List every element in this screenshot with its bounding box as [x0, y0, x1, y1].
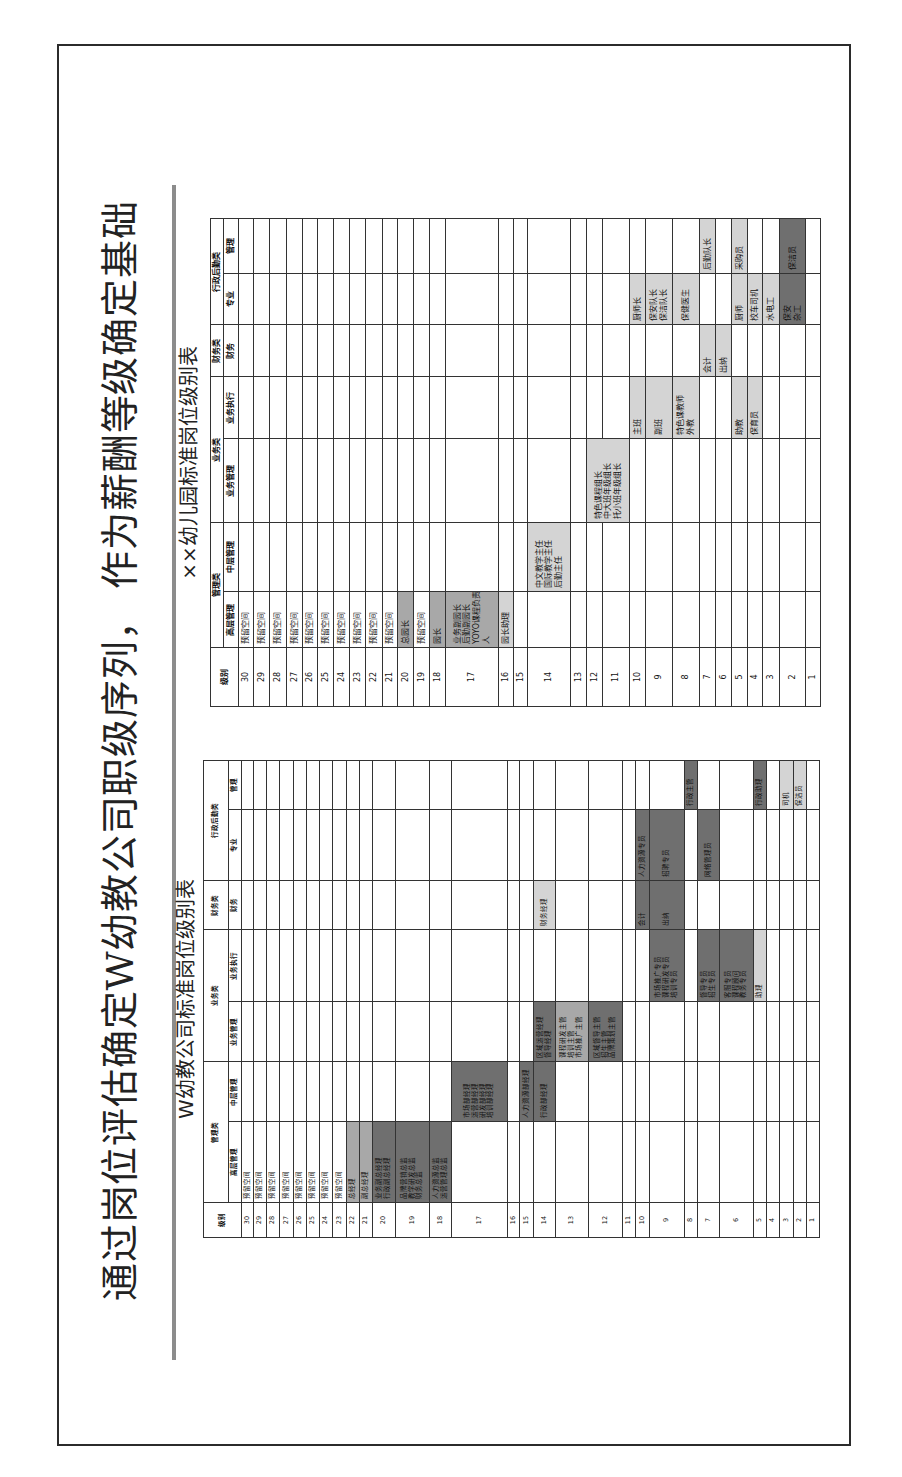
empty-cell	[673, 325, 700, 377]
empty-cell	[807, 1062, 820, 1122]
empty-cell	[396, 810, 430, 881]
level-row: 19品牌营销总监教学研发总监财务总监	[396, 761, 430, 1238]
empty-cell	[398, 219, 414, 274]
empty-cell	[528, 219, 571, 274]
position-title: 保健医生	[681, 276, 691, 321]
empty-cell	[318, 439, 334, 523]
empty-cell	[254, 930, 267, 1002]
position-title: 教务专员	[740, 932, 748, 998]
empty-cell	[673, 523, 700, 592]
level-row: 8行政主管	[685, 761, 698, 1238]
empty-cell	[239, 274, 254, 325]
empty-cell	[287, 274, 303, 325]
empty-cell	[780, 439, 806, 523]
empty-cell	[673, 219, 700, 274]
level-row: 11	[623, 761, 636, 1238]
position-title: 行政副总经理	[384, 1124, 392, 1199]
level-row: 2保洁员	[794, 761, 807, 1238]
position-cell: 校车司机	[748, 274, 763, 325]
position-cell: 副班	[646, 377, 673, 439]
empty-cell	[556, 1122, 589, 1203]
level-number: 2	[794, 1203, 807, 1238]
level-number: 17	[452, 1203, 508, 1238]
empty-cell	[347, 930, 360, 1002]
empty-cell	[630, 523, 646, 592]
position-title: 保安队长	[649, 276, 659, 321]
position-cell: 水电工	[763, 274, 780, 325]
level-row: 7会计后勤队长	[700, 219, 716, 707]
empty-cell	[452, 881, 508, 930]
empty-cell	[267, 881, 280, 930]
empty-cell	[430, 325, 446, 377]
level-row: 7督导专员招生专员网络管理员	[698, 761, 720, 1238]
empty-cell	[320, 810, 333, 881]
category-header: 行政后勤类	[204, 761, 229, 881]
level-number: 28	[267, 1203, 280, 1238]
empty-cell	[446, 274, 499, 325]
empty-cell	[446, 439, 499, 523]
empty-cell	[287, 219, 303, 274]
position-cell: 督导专员招生专员	[698, 930, 720, 1002]
empty-cell	[603, 592, 630, 648]
position-title: 外教	[686, 379, 696, 435]
empty-cell	[398, 325, 414, 377]
position-cell: 副总经理	[360, 1122, 373, 1203]
position-title: 预留空间	[321, 594, 331, 644]
level-row: 25预留空间	[318, 219, 334, 707]
level-number: 20	[398, 648, 414, 707]
position-cell: 预留空间	[270, 592, 287, 648]
empty-cell	[807, 1002, 820, 1062]
empty-cell	[508, 1002, 520, 1062]
column-header: 高层管理	[224, 592, 239, 648]
empty-cell	[452, 1122, 508, 1203]
level-row: 19预留空间	[414, 219, 430, 707]
position-title: 特色课教师	[676, 379, 686, 435]
empty-cell	[748, 219, 763, 274]
empty-cell	[698, 1062, 720, 1122]
empty-cell	[587, 592, 603, 648]
empty-cell	[623, 1062, 636, 1122]
empty-cell	[748, 325, 763, 377]
empty-cell	[754, 881, 767, 930]
empty-cell	[630, 439, 646, 523]
empty-cell	[763, 592, 780, 648]
level-number: 12	[587, 648, 603, 707]
level-row: 25预留空间	[307, 761, 320, 1238]
level-number: 5	[732, 648, 748, 707]
empty-cell	[636, 930, 650, 1002]
level-row: 9市场推广专员课程研发专员培训专员出纳招聘专员	[650, 761, 685, 1238]
empty-cell	[398, 439, 414, 523]
empty-cell	[806, 592, 821, 648]
empty-cell	[307, 1002, 320, 1062]
position-cell: 园长	[430, 592, 446, 648]
empty-cell	[794, 810, 807, 881]
empty-cell	[254, 325, 270, 377]
empty-cell	[508, 1122, 520, 1203]
position-cell: 预留空间	[334, 592, 350, 648]
position-title: 运营管理总监	[441, 1124, 449, 1199]
empty-cell	[303, 219, 318, 274]
empty-cell	[366, 325, 383, 377]
position-cell: 会计	[636, 881, 650, 930]
empty-cell	[685, 930, 698, 1002]
empty-cell	[254, 1062, 267, 1122]
position-title: 预留空间	[385, 594, 395, 644]
position-cell: 保育员	[748, 377, 763, 439]
kindergarten-job-level-table: 级别管理类业务类财务类行政后勤类高层管理中层管理业务管理业务执行财务专业管理30…	[210, 218, 821, 707]
empty-cell	[806, 325, 821, 377]
empty-cell	[685, 1062, 698, 1122]
position-cell: 区域运营经理督导经理	[534, 1002, 556, 1062]
position-title: 园长	[433, 594, 443, 644]
level-row: 14行政部经理区域运营经理督导经理财务经理	[534, 761, 556, 1238]
empty-cell	[623, 1122, 636, 1203]
empty-cell	[700, 523, 716, 592]
empty-cell	[589, 761, 623, 810]
position-cell: 区域督导主管招生主管品牌策划主管	[589, 1002, 623, 1062]
position-title: 保育员	[750, 379, 760, 435]
empty-cell	[528, 325, 571, 377]
level-number: 11	[623, 1203, 636, 1238]
position-title: 预留空间	[290, 594, 300, 644]
empty-cell	[333, 930, 347, 1002]
level-number: 17	[446, 648, 499, 707]
position-title: 出纳	[663, 883, 671, 926]
